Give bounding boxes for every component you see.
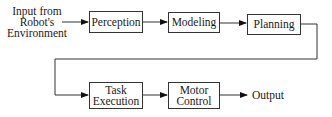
task-execution-label-line-1: Task	[105, 85, 127, 96]
stage-motor-control: Motor Control	[168, 82, 220, 109]
motor-control-label-line-2: Control	[176, 96, 211, 107]
stage-perception: Perception	[89, 11, 143, 33]
stage-planning: Planning	[247, 14, 301, 35]
perception-label: Perception	[91, 17, 140, 28]
planning-label: Planning	[254, 19, 295, 30]
stage-modeling: Modeling	[168, 12, 220, 33]
input-label-line-3: Environment	[2, 28, 72, 39]
output-label: Output	[252, 90, 284, 101]
task-execution-label-line-2: Execution	[93, 96, 140, 107]
output-label-text: Output	[252, 89, 284, 101]
input-label: Input from Robot's Environment	[2, 6, 72, 39]
modeling-label: Modeling	[172, 17, 217, 28]
motor-control-label-line-1: Motor	[180, 85, 209, 96]
stage-task-execution: Task Execution	[89, 82, 143, 109]
